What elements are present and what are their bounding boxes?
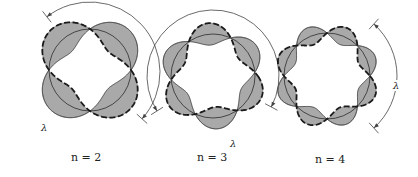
label-n4: n = 4 <box>315 153 345 166</box>
diagram-n4 <box>278 19 397 133</box>
lambda-label-n2: λ <box>40 122 48 133</box>
wave-envelope-shading <box>42 22 137 117</box>
envelope-outline <box>278 27 376 125</box>
wavelength-arc <box>374 24 397 128</box>
arrowhead-icon <box>142 114 147 119</box>
diagram-n3 <box>147 10 279 129</box>
arrowhead-icon <box>271 102 275 107</box>
label-n3: n = 3 <box>197 151 227 164</box>
arrowhead-icon <box>47 12 52 17</box>
arrowhead-icon <box>153 106 157 111</box>
wave-dashed <box>278 27 376 125</box>
lambda-label-n4: λ <box>392 80 400 91</box>
diagram-n2 <box>42 2 160 124</box>
lambda-label-n3: λ <box>229 138 237 149</box>
wave-envelope-shading <box>278 27 376 125</box>
wave-solid <box>278 27 376 125</box>
label-n2: n = 2 <box>71 151 101 164</box>
